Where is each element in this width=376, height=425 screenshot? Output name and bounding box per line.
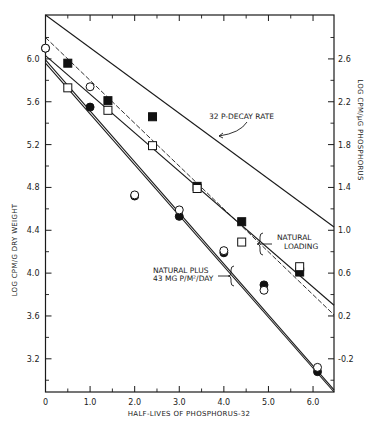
y-tick-label: 3.6 — [27, 312, 40, 321]
open-circle-marker — [260, 286, 268, 294]
y2-tick-label: 1.8 — [338, 141, 351, 150]
open-circle-marker — [42, 44, 50, 52]
x-tick-label: 2.0 — [128, 398, 141, 407]
natural-loading-brace — [257, 233, 272, 255]
x-tick-label: 1.0 — [84, 398, 97, 407]
filled-square-marker — [64, 59, 72, 67]
plot-border — [46, 15, 335, 392]
y-tick-label: 3.2 — [27, 355, 40, 364]
y2-tick-label: 2.6 — [338, 55, 351, 64]
open-circle-marker — [86, 83, 94, 91]
y-axis-title: LOG CPM/G DRY WEIGHT — [11, 203, 19, 296]
fit-line — [46, 15, 335, 227]
x-tick-label: 6.0 — [307, 398, 320, 407]
fit-lines — [46, 15, 335, 392]
axis-ticks: 01.02.03.04.05.06.06.05.65.24.84.44.03.6… — [27, 15, 354, 407]
y-tick-label: 4.0 — [27, 269, 40, 278]
natural-loading-label-line2: LOADING — [284, 242, 318, 251]
chart: 01.02.03.04.05.06.06.05.65.24.84.44.03.6… — [0, 0, 376, 425]
decay-rate-arrow — [219, 122, 247, 136]
y-tick-label: 4.8 — [27, 183, 40, 192]
y-tick-label: 5.2 — [27, 141, 40, 150]
y2-tick-label: 0.6 — [338, 269, 351, 278]
open-square-marker — [238, 238, 246, 246]
open-circle-marker — [314, 363, 322, 371]
y2-tick-label: -0.2 — [338, 355, 354, 364]
x-tick-label: 3.0 — [173, 398, 186, 407]
open-circle-marker — [220, 247, 228, 255]
open-square-marker — [296, 263, 304, 271]
x-tick-label: 0 — [43, 398, 48, 407]
fit-line — [46, 63, 335, 392]
open-square-marker — [149, 142, 157, 150]
y2-tick-label: 1.0 — [338, 226, 351, 235]
decay-rate-label: 32 P-DECAY RATE — [209, 112, 274, 121]
filled-square-marker — [104, 97, 112, 105]
y2-axis-title: LOG CPM/μG PHOSPHORUS — [356, 79, 364, 181]
open-circle-marker — [131, 191, 139, 199]
open-circle-marker — [175, 206, 183, 214]
x-axis-title: HALF-LIVES OF PHOSPHORUS-32 — [128, 410, 251, 418]
x-tick-label: 5.0 — [262, 398, 275, 407]
filled-square-marker — [149, 113, 157, 121]
filled-square-marker — [238, 218, 246, 226]
natural-plus-label-line2: 43 MG P/M²/DAY — [153, 274, 214, 283]
open-square-marker — [104, 106, 112, 114]
open-square-marker — [64, 84, 72, 92]
y-tick-label: 5.6 — [27, 98, 40, 107]
plot-frame — [46, 15, 335, 392]
y2-tick-label: 1.4 — [338, 183, 351, 192]
y-tick-label: 4.4 — [27, 226, 40, 235]
natural-loading-label-line1: NATURAL — [277, 233, 312, 242]
y-tick-label: 6.0 — [27, 55, 40, 64]
open-square-marker — [193, 185, 201, 193]
y2-tick-label: 0.2 — [338, 312, 351, 321]
y2-tick-label: 2.2 — [338, 98, 351, 107]
data-points — [42, 44, 322, 375]
x-tick-label: 4.0 — [217, 398, 230, 407]
filled-circle-marker — [86, 103, 94, 111]
